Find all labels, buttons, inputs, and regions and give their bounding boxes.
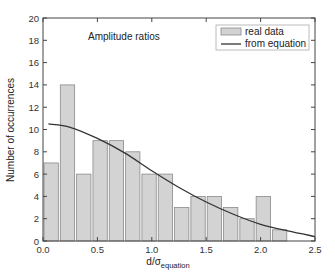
x-tick-label: 0.5 xyxy=(91,244,104,255)
legend-label-real-data: real data xyxy=(245,26,284,37)
y-tick-label: 18 xyxy=(28,35,39,46)
y-tick-label: 10 xyxy=(28,124,39,135)
x-tick-label: 1.0 xyxy=(145,244,158,255)
x-tick-label: 2.5 xyxy=(308,244,321,255)
bar xyxy=(191,196,205,241)
y-tick-label: 20 xyxy=(28,13,39,24)
x-tick-label: 2.0 xyxy=(254,244,267,255)
y-tick-label: 2 xyxy=(34,213,39,224)
bar xyxy=(60,85,74,241)
bar xyxy=(272,230,286,241)
y-axis-title: Number of occurrences xyxy=(5,78,16,182)
bar xyxy=(93,141,107,241)
bar xyxy=(142,174,156,241)
legend-label-from-equation: from equation xyxy=(245,38,306,49)
x-axis-title: d/σequation xyxy=(146,256,189,270)
bar xyxy=(175,208,189,241)
bar xyxy=(126,152,140,241)
bar xyxy=(109,141,123,241)
y-tick-label: 8 xyxy=(34,146,39,157)
y-tick-label: 16 xyxy=(28,57,39,68)
annotation-text: Amplitude ratios xyxy=(88,31,160,42)
bar xyxy=(77,174,91,241)
y-tick-label: 4 xyxy=(34,191,39,202)
x-tick-label: 0.0 xyxy=(36,244,49,255)
bar xyxy=(158,174,172,241)
histogram-chart: 02468101214161820 0.00.51.01.52.02.5 Amp… xyxy=(0,0,335,279)
legend: real data from equation xyxy=(216,25,309,50)
legend-bar-swatch-icon xyxy=(221,28,241,35)
y-tick-label: 12 xyxy=(28,102,39,113)
bar-series-real-data xyxy=(44,85,287,241)
y-tick-label: 14 xyxy=(28,79,39,90)
bar xyxy=(44,163,58,241)
x-tick-label: 1.5 xyxy=(200,244,213,255)
bar xyxy=(256,196,270,241)
y-tick-label: 6 xyxy=(34,169,39,180)
